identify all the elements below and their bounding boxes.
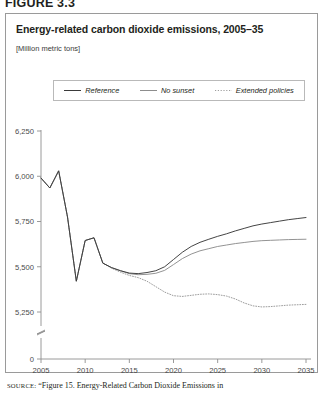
series-line-no-sunset: [41, 171, 306, 281]
line-chart-plot: 05,2505,5005,7506,0006,25020052010201520…: [6, 14, 319, 374]
series-line-extended-policies: [41, 171, 306, 307]
x-tick-label-2020: 2020: [165, 366, 182, 374]
source-text: “Figure 15. Energy-Related Carbon Dioxid…: [38, 381, 223, 390]
y-tick-label-0: 0: [30, 355, 34, 364]
x-tick-label-2005: 2005: [33, 366, 50, 374]
source-note: SOURCE: “Figure 15. Energy-Related Carbo…: [7, 381, 223, 390]
source-prefix: SOURCE:: [7, 382, 36, 389]
x-tick-label-2035: 2035: [298, 366, 315, 374]
y-tick-label-5500: 5,500: [15, 263, 34, 272]
y-tick-label-6000: 6,000: [15, 172, 34, 181]
y-tick-label-5250: 5,250: [15, 308, 34, 317]
figure-panel: Energy-related carbon dioxide emissions,…: [5, 13, 318, 373]
figure-label: FIGURE 3.3: [5, 0, 75, 7]
x-tick-label-2015: 2015: [121, 366, 138, 374]
x-tick-label-2010: 2010: [77, 366, 94, 374]
x-tick-label-2025: 2025: [209, 366, 226, 374]
y-tick-label-5750: 5,750: [15, 217, 34, 226]
y-tick-label-6250: 6,250: [15, 127, 34, 136]
y-axis-break-icon: [37, 330, 45, 335]
x-tick-label-2030: 2030: [253, 366, 270, 374]
